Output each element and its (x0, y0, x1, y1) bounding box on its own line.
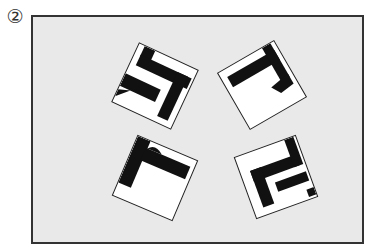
puzzle-frame (31, 15, 364, 244)
question-number-label: ② (4, 5, 26, 27)
